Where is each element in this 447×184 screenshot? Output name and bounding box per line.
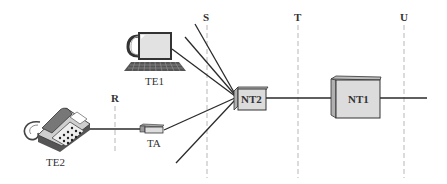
reference-label-t: T bbox=[294, 11, 302, 23]
reference-label-r: R bbox=[111, 92, 120, 104]
te1-computer-icon bbox=[124, 32, 186, 71]
nt1-label: NT1 bbox=[348, 93, 369, 105]
s-bus-wires bbox=[164, 24, 235, 163]
nt2-label: NT2 bbox=[241, 93, 262, 105]
ta-label: TA bbox=[147, 137, 161, 149]
reference-label-s: S bbox=[203, 11, 209, 23]
te1-label: TE1 bbox=[145, 75, 164, 87]
te2-label: TE2 bbox=[46, 156, 65, 168]
reference-label-u: U bbox=[400, 11, 408, 23]
isdn-diagram: S T U R bbox=[0, 0, 447, 184]
ta-adapter-icon bbox=[140, 124, 164, 133]
te2-telephone-icon bbox=[25, 108, 90, 152]
